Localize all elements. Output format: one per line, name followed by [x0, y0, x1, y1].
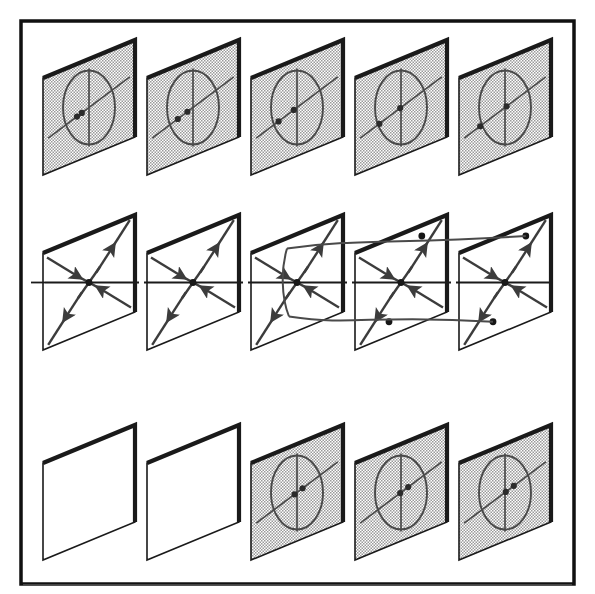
- panel-bot-5-fixed-point-2: [511, 483, 517, 489]
- panel-bot-5[interactable]: [459, 425, 551, 560]
- panel-bot-2[interactable]: [147, 425, 239, 560]
- panel-top-4-fixed-point-1: [376, 121, 382, 127]
- panel-bot-3-fixed-point-1: [292, 491, 298, 497]
- panel-top-2[interactable]: [147, 40, 239, 175]
- panel-top-2-fixed-point-2: [184, 109, 190, 115]
- panel-bot-4[interactable]: [355, 425, 447, 560]
- panel-top-4-fixed-point-2: [397, 105, 403, 111]
- panel-bot-4-fixed-point-2: [405, 484, 411, 490]
- panel-bot-4-fixed-point-1: [397, 490, 403, 496]
- panel-top-5-fixed-point-2: [504, 103, 510, 109]
- panel-top-3-fixed-point-2: [291, 107, 297, 113]
- figure-container: [0, 0, 595, 594]
- panel-top-3-fixed-point-1: [276, 118, 282, 124]
- panel-top-2-fixed-point-1: [175, 116, 181, 122]
- panel-grid: [43, 40, 551, 560]
- panel-bot-3-fixed-point-2: [300, 485, 306, 491]
- panel-top-1[interactable]: [43, 40, 135, 175]
- panel-bot-5-fixed-point-1: [503, 489, 509, 495]
- panel-top-5-fixed-point-1: [477, 123, 483, 129]
- panel-mid-4-node-point-upper: [418, 233, 425, 240]
- panel-top-5[interactable]: [459, 40, 551, 175]
- panel-top-1-fixed-point-2: [79, 110, 85, 116]
- panel-top-3[interactable]: [251, 40, 343, 175]
- bottom-row: [43, 425, 551, 560]
- top-row: [43, 40, 551, 175]
- figure-canvas: [0, 0, 595, 594]
- panel-bot-3[interactable]: [251, 425, 343, 560]
- panel-top-4[interactable]: [355, 40, 447, 175]
- panel-bot-1[interactable]: [43, 425, 135, 560]
